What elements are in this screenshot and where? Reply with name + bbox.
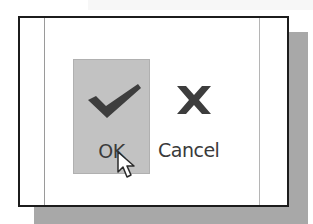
cancel-label: Cancel	[158, 139, 219, 161]
background-strip	[88, 0, 313, 10]
x-icon	[174, 85, 214, 115]
confirm-dialog-panel: OK Cancel	[18, 16, 289, 207]
panel-divider-left	[44, 18, 45, 205]
panel-divider-right	[259, 18, 260, 205]
arrow-cursor-icon	[117, 151, 137, 179]
ok-button[interactable]: OK	[73, 59, 150, 174]
cancel-button[interactable]: Cancel	[158, 59, 240, 174]
ok-label: OK	[74, 140, 149, 162]
checkmark-icon	[86, 82, 142, 120]
